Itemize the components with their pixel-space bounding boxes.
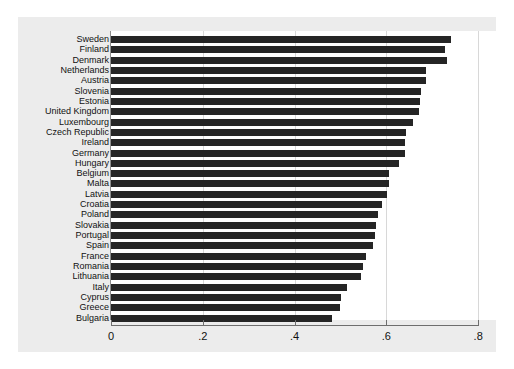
bar bbox=[111, 253, 366, 260]
category-label: Denmark bbox=[72, 56, 109, 65]
bar bbox=[111, 139, 405, 146]
category-label: Ireland bbox=[81, 138, 109, 147]
x-tick-mark bbox=[478, 320, 479, 326]
bar bbox=[111, 98, 420, 105]
bar bbox=[111, 67, 426, 74]
category-label: Greece bbox=[79, 303, 109, 312]
category-label: Belgium bbox=[76, 169, 109, 178]
category-label: Finland bbox=[79, 45, 109, 54]
chart-page: SwedenFinlandDenmarkNetherlandsAustriaSl… bbox=[0, 0, 514, 369]
bar bbox=[111, 77, 426, 84]
bar bbox=[111, 180, 389, 187]
category-label: Spain bbox=[86, 241, 109, 250]
x-tick-mark bbox=[295, 320, 296, 326]
bar bbox=[111, 150, 405, 157]
bar bbox=[111, 242, 373, 249]
bar bbox=[111, 191, 387, 198]
x-tick-label: 0 bbox=[96, 330, 126, 343]
x-tick-mark bbox=[203, 320, 204, 326]
category-label: Luxembourg bbox=[59, 118, 109, 127]
category-label: Portugal bbox=[75, 231, 109, 240]
x-tick-label: .6 bbox=[371, 330, 401, 343]
bar bbox=[111, 294, 341, 301]
bar bbox=[111, 36, 451, 43]
bar bbox=[111, 129, 406, 136]
category-label: Latvia bbox=[85, 190, 109, 199]
bar bbox=[111, 211, 378, 218]
bar bbox=[111, 160, 399, 167]
category-label: Netherlands bbox=[60, 66, 109, 75]
bar bbox=[111, 201, 382, 208]
bar bbox=[111, 108, 419, 115]
bar bbox=[111, 284, 347, 291]
category-label: Romania bbox=[73, 262, 109, 271]
category-label: Austria bbox=[81, 76, 109, 85]
category-label: Italy bbox=[92, 283, 109, 292]
category-label: Hungary bbox=[75, 159, 109, 168]
category-label: Croatia bbox=[80, 200, 109, 209]
x-tick-label: .4 bbox=[280, 330, 310, 343]
bar bbox=[111, 170, 389, 177]
bar bbox=[111, 263, 363, 270]
category-label: Slovenia bbox=[74, 87, 109, 96]
category-label: Bulgaria bbox=[76, 314, 109, 323]
category-label: Lithuania bbox=[72, 272, 109, 281]
x-tick-label: .8 bbox=[463, 330, 493, 343]
bar bbox=[111, 46, 445, 53]
x-tick-mark bbox=[111, 320, 112, 326]
bar bbox=[111, 232, 375, 239]
x-tick-mark bbox=[386, 320, 387, 326]
category-label: Malta bbox=[87, 179, 109, 188]
gridline bbox=[478, 31, 479, 320]
bar bbox=[111, 222, 376, 229]
bar bbox=[111, 88, 421, 95]
bar bbox=[111, 315, 332, 322]
category-label: Sweden bbox=[76, 35, 109, 44]
bar bbox=[111, 273, 361, 280]
x-tick-label: .2 bbox=[188, 330, 218, 343]
category-label: United Kingdom bbox=[45, 107, 109, 116]
category-label: Estonia bbox=[79, 97, 109, 106]
bar bbox=[111, 304, 340, 311]
category-label: Cyprus bbox=[80, 293, 109, 302]
category-label: Poland bbox=[81, 210, 109, 219]
category-label: Slovakia bbox=[75, 221, 109, 230]
category-label: Czech Republic bbox=[46, 128, 109, 137]
bar bbox=[111, 119, 413, 126]
category-label: Germany bbox=[72, 149, 109, 158]
category-label: France bbox=[81, 252, 109, 261]
bar bbox=[111, 57, 447, 64]
